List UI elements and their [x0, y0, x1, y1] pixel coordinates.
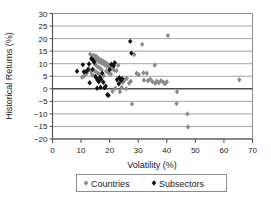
x-tick-label: 0: [50, 146, 55, 155]
x-tick-label: 20: [105, 146, 114, 155]
y-tick-label: 20: [39, 35, 48, 44]
y-tick-label: −10: [34, 110, 48, 119]
y-tick-label: −20: [34, 135, 48, 144]
y-tick-label: −5: [38, 97, 48, 106]
legend-label-subsectors: Subsectors: [159, 179, 205, 189]
y-axis-title: Historical Returns (%): [4, 32, 14, 120]
y-tick-label: 25: [39, 22, 48, 31]
y-tick-label: 15: [39, 47, 48, 56]
y-tick-label: 0: [43, 85, 48, 94]
y-tick-label: 10: [39, 60, 48, 69]
x-tick-label: 70: [248, 146, 257, 155]
x-tick-label: 10: [77, 146, 86, 155]
y-tick-label: −15: [34, 122, 48, 131]
chart-canvas: 302520151050−5−10−15−20 010203040506070 …: [0, 0, 271, 197]
x-tick-label: 60: [219, 146, 228, 155]
x-axis-title: Volatility (%): [127, 160, 177, 170]
chart-legend: CountriesSubsectors: [77, 175, 227, 192]
x-tick-label: 40: [162, 146, 171, 155]
x-tick-label: 50: [191, 146, 200, 155]
x-ticks-group: 010203040506070: [50, 139, 257, 155]
scatter-chart-figure: 302520151050−5−10−15−20 010203040506070 …: [0, 0, 271, 197]
x-tick-label: 30: [134, 146, 143, 155]
legend-label-countries: Countries: [91, 179, 130, 189]
y-tick-label: 30: [39, 10, 48, 19]
y-tick-label: 5: [43, 72, 48, 81]
